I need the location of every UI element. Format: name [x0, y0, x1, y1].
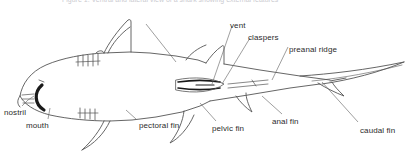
mouth-arc-inner — [40, 88, 46, 107]
gill-slits-lower — [80, 108, 95, 120]
shark-anatomy-figure: Figure 1. Ventral and lateral view of a … — [0, 0, 408, 151]
label-caudal-fin: caudal fin — [360, 126, 395, 135]
label-mouth: mouth — [26, 121, 49, 130]
leader-anal-fin — [262, 96, 282, 114]
caudal-fin-center-line — [312, 65, 402, 81]
label-vent: vent — [230, 21, 246, 30]
preanal-ridges — [228, 80, 268, 88]
caudal-fin-upper-lobe — [300, 62, 404, 76]
gill-slits-upper — [78, 54, 98, 66]
eye-mark — [39, 80, 44, 82]
clasper-upper — [178, 81, 220, 83]
leader-caudal-fin — [322, 82, 358, 122]
leader-dorsal-extra — [146, 24, 176, 62]
label-anal-fin: anal fin — [272, 117, 299, 126]
leader-pelvic-fin — [200, 103, 216, 121]
shark-line-drawing — [0, 0, 408, 151]
leader-pectoral-fin — [126, 110, 136, 119]
label-claspers: claspers — [248, 33, 279, 42]
snout-tip — [18, 96, 20, 107]
pelvic-fin-far — [186, 45, 206, 60]
gill-region-upper-line — [76, 61, 100, 62]
leader-preanal-ridge — [272, 47, 288, 80]
shark-dorsal-contour — [20, 52, 206, 96]
leader-mouth — [48, 108, 50, 119]
label-pelvic-fin: pelvic fin — [212, 124, 244, 133]
label-pectoral-fin: pectoral fin — [139, 121, 179, 130]
leader-vent — [212, 26, 232, 84]
label-nostril: nostril — [4, 108, 26, 117]
leader-claspers — [222, 38, 250, 84]
second-dorsal-fin — [206, 46, 224, 64]
caudal-peduncle-upper — [224, 64, 330, 80]
first-dorsal-fin — [104, 20, 131, 53]
leader-lines — [22, 24, 358, 122]
label-preanal-ridge: preanal ridge — [289, 45, 337, 54]
